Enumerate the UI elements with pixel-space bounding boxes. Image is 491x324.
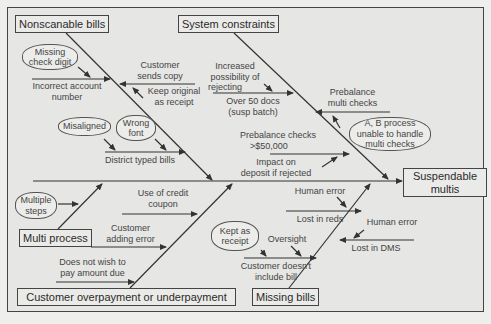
- cause-customer-adding-error: Customeradding error: [98, 223, 163, 244]
- cause-oversight: Oversight: [262, 234, 312, 245]
- cloud-missing-check-digit: Missingcheck digit: [22, 44, 78, 70]
- bone-multi-process: [58, 184, 102, 229]
- cause-over-50-docs: Over 50 docs(susp batch): [218, 96, 288, 117]
- category-system-constraints: System constraints: [178, 15, 279, 33]
- cause-keep-original: Keep originalas receipt: [143, 86, 205, 107]
- cause-prebalance-multi-checks: Prebalancemulti checks: [320, 87, 385, 108]
- cause-impact-on-deposit: Impact ondeposit if rejected: [236, 157, 316, 178]
- category-multi-process: Multi process: [19, 229, 92, 247]
- cause-lost-in-reds: Lost in reds: [290, 214, 350, 225]
- category-missing-bills: Missing bills: [252, 288, 319, 306]
- cause-district-typed-bills: District typed bills: [95, 155, 185, 166]
- cause-human-error-2: Human error: [362, 217, 422, 228]
- cloud-ab-process: A, B processunable to handlemulti checks: [349, 117, 431, 151]
- cloud-wrong-font: Wrongfont: [116, 115, 156, 141]
- cloud-kept-as-receipt: Kept asreceipt: [211, 221, 259, 251]
- category-nonscanable-bills: Nonscanable bills: [15, 15, 109, 33]
- cloud-misaligned: Misaligned: [58, 117, 111, 136]
- cause-customer-sends-copy: Customersends copy: [130, 60, 190, 81]
- cause-customer-doesnt-include-bill: Customer doesn'tinclude bill: [236, 261, 316, 282]
- cause-text: check digit: [29, 57, 72, 68]
- cause-increased-possibility: Increasedpossibility ofrejecting: [200, 61, 270, 93]
- category-customer-overpayment: Customer overpayment or underpayment: [17, 288, 236, 306]
- cause-does-not-wish-to-pay: Does not wish topay amount due: [50, 257, 135, 278]
- cause-lost-in-dms: Lost in DMS: [346, 243, 406, 254]
- cause-text: Missing: [29, 47, 72, 58]
- cause-use-of-credit-coupon: Use of creditcoupon: [128, 188, 198, 209]
- effect-suspendable-multis: Suspendable multis: [403, 168, 487, 197]
- cause-prebalance-50k: Prebalance checks>$50,000: [238, 130, 318, 151]
- cause-human-error-1: Human error: [290, 186, 350, 197]
- cloud-multiple-steps: Multiplesteps: [15, 192, 57, 219]
- cause-incorrect-account: Incorrect accountnumber: [22, 81, 112, 102]
